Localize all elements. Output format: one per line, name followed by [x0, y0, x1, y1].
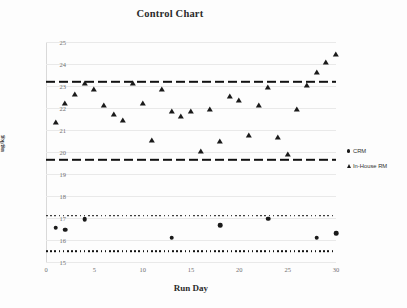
control-limit-line [46, 215, 336, 217]
legend-item-in-house-rm: In-House RM [344, 162, 387, 170]
data-point-marker [226, 94, 232, 99]
data-point-marker [63, 227, 68, 232]
data-point-marker [304, 83, 310, 88]
data-point-marker [266, 216, 271, 221]
x-tick-label: 0 [35, 266, 57, 273]
data-point-marker [120, 118, 126, 123]
gridline-y [46, 174, 336, 175]
data-point-marker [323, 59, 329, 64]
data-point-marker [333, 52, 339, 57]
data-point-marker [236, 98, 242, 103]
data-point-marker [207, 107, 213, 112]
data-point-marker [334, 231, 339, 236]
data-point-marker [91, 87, 97, 92]
data-point-marker [168, 109, 174, 114]
gridline-y [46, 86, 336, 87]
data-point-marker [52, 120, 58, 125]
x-tick-label: 20 [228, 266, 250, 273]
legend-item-crm: CRM [344, 147, 387, 155]
data-point-marker [255, 102, 261, 107]
control-limit-line [46, 80, 336, 82]
data-point-marker [139, 100, 145, 105]
y-axis-label: ug/kg [0, 135, 6, 152]
data-point-marker [294, 107, 300, 112]
control-limit-line [46, 158, 336, 160]
data-point-marker [314, 235, 319, 240]
x-tick-label: 15 [180, 266, 202, 273]
y-tick-label: 22 [44, 105, 66, 112]
data-point-marker [159, 87, 165, 92]
y-tick-label: 16 [44, 237, 66, 244]
gridline-y [46, 130, 336, 131]
data-point-marker [81, 80, 87, 85]
data-point-marker [197, 149, 203, 154]
chart-title: Control Chart [0, 8, 340, 19]
y-tick-label: 20 [44, 149, 66, 156]
chart-legend: CRM In-House RM [344, 147, 387, 177]
circle-marker-icon [344, 149, 353, 153]
data-point-marker [188, 109, 194, 114]
y-tick-label: 24 [44, 61, 66, 68]
y-tick-label: 21 [44, 127, 66, 134]
data-point-marker [130, 80, 136, 85]
x-tick-label: 25 [277, 266, 299, 273]
data-point-marker [284, 152, 290, 157]
x-tick-label: 30 [325, 266, 347, 273]
plot-area [46, 42, 336, 262]
data-point-marker [217, 139, 223, 144]
gridline-y [46, 64, 336, 65]
y-tick-label: 15 [44, 259, 66, 266]
x-tick-label: 10 [132, 266, 154, 273]
data-point-marker [101, 102, 107, 107]
data-point-marker [178, 113, 184, 118]
gridline-y [46, 42, 336, 43]
legend-label-crm: CRM [353, 148, 366, 154]
legend-label-in-house-rm: In-House RM [353, 163, 387, 169]
gridline-y [46, 240, 336, 241]
data-point-marker [275, 134, 281, 139]
x-tick-label: 5 [83, 266, 105, 273]
data-point-marker [169, 235, 174, 240]
y-tick-label: 18 [44, 193, 66, 200]
data-point-marker [246, 132, 252, 137]
y-tick-label: 17 [44, 215, 66, 222]
gridline-y [46, 262, 336, 263]
data-point-marker [72, 91, 78, 96]
y-tick-label: 25 [44, 39, 66, 46]
data-point-marker [53, 226, 58, 231]
data-point-marker [149, 138, 155, 143]
y-tick-label: 19 [44, 171, 66, 178]
data-point-marker [313, 69, 319, 74]
y-tick-label: 23 [44, 83, 66, 90]
control-chart-figure: Control Chart ug/kg Run Day CRM In-House… [0, 0, 407, 308]
x-axis-label: Run Day [46, 283, 336, 293]
gridline-y [46, 196, 336, 197]
control-limit-line [46, 250, 336, 252]
gridline-y [46, 218, 336, 219]
triangle-marker-icon [344, 164, 353, 168]
data-point-marker [218, 223, 223, 228]
data-point-marker [82, 217, 87, 222]
data-point-marker [265, 85, 271, 90]
gridline-y [46, 152, 336, 153]
data-point-marker [110, 111, 116, 116]
